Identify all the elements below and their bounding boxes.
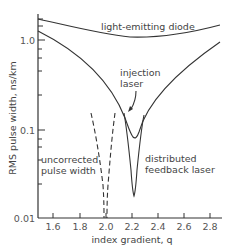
uncorrected-label-1: uncorrected [41,154,98,165]
y-tick-0.1: 0.1 [20,125,35,136]
y-axis-title: RMS pulse width, ns/km [7,61,18,175]
injection-laser-label-2: laser [120,78,143,89]
y-tick-1: 1.0 [20,35,35,46]
axes [38,14,222,218]
injection-laser-arrow [131,91,136,109]
y-tick-0.01: 0.01 [14,213,35,224]
pulse-width-chart: 1.0 0.1 0.01 1.6 1.8 2.0 2.2 2.4 2.6 2.8… [0,0,236,251]
x-tick-2.8: 2.8 [202,221,217,232]
x-tick-2.4: 2.4 [150,221,165,232]
injection-laser-label-1: injection [120,67,161,78]
x-tick-2.0: 2.0 [98,221,113,232]
x-tick-2.6: 2.6 [176,221,191,232]
x-tick-1.8: 1.8 [72,221,87,232]
x-tick-1.6: 1.6 [45,221,60,232]
x-tick-2.2: 2.2 [124,221,139,232]
dfb-label-1: distributed [145,153,197,164]
uncorrected-label-2: pulse width [41,165,96,176]
x-ticks [53,213,210,218]
dfb-label-2: feedback laser [145,164,215,175]
led-label: light-emitting diode [101,21,195,32]
uncorrected-curve-right [107,113,115,218]
x-axis-title: index gradient, q [91,234,172,245]
